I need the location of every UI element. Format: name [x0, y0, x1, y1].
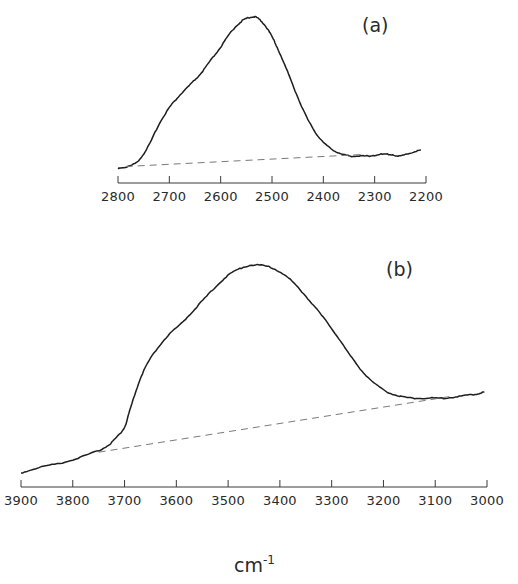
x-axis-tick-label: 2500: [255, 189, 289, 204]
panel-a-label: (a): [362, 14, 388, 36]
x-axis-tick-label: 3100: [418, 493, 452, 508]
x-axis-tick-label: 3600: [159, 493, 193, 508]
panel-b-x-axis: 3900380037003600350034003300320031003000: [4, 480, 504, 508]
panel-a: (a) 2800270026002500240023002200: [101, 14, 443, 204]
x-axis-tick-label: 2400: [306, 189, 340, 204]
panel-b-spectrum-line: [21, 264, 484, 473]
x-axis-unit-label: cm-1: [234, 553, 275, 576]
x-axis-tick-label: 3800: [56, 493, 90, 508]
unit-base: cm: [234, 554, 263, 576]
x-axis-tick-label: 3300: [315, 493, 349, 508]
panel-a-spectrum-line: [118, 16, 421, 168]
x-axis-tick-label: 2600: [204, 189, 238, 204]
x-axis-tick-label: 2800: [101, 189, 135, 204]
panel-b-baseline-dashed: [99, 396, 454, 452]
x-axis-tick-label: 3400: [263, 493, 297, 508]
x-axis-tick-label: 3700: [108, 493, 142, 508]
x-axis-tick-label: 2300: [358, 189, 392, 204]
x-axis-tick-label: 3200: [366, 493, 400, 508]
x-axis-tick-label: 3900: [4, 493, 38, 508]
unit-superscript: -1: [263, 553, 275, 567]
panel-b-label: (b): [386, 258, 413, 280]
x-axis-tick-label: 2700: [152, 189, 186, 204]
panel-b: (b) 390038003700360035003400330032003100…: [4, 258, 504, 508]
x-axis-tick-label: 3500: [211, 493, 245, 508]
x-axis-tick-label: 3000: [470, 493, 504, 508]
panel-a-baseline-dashed: [126, 154, 365, 166]
panel-a-x-axis: 2800270026002500240023002200: [101, 176, 443, 204]
x-axis-tick-label: 2200: [409, 189, 443, 204]
ir-spectra-figure: (a) 2800270026002500240023002200 (b) 390…: [0, 0, 518, 584]
